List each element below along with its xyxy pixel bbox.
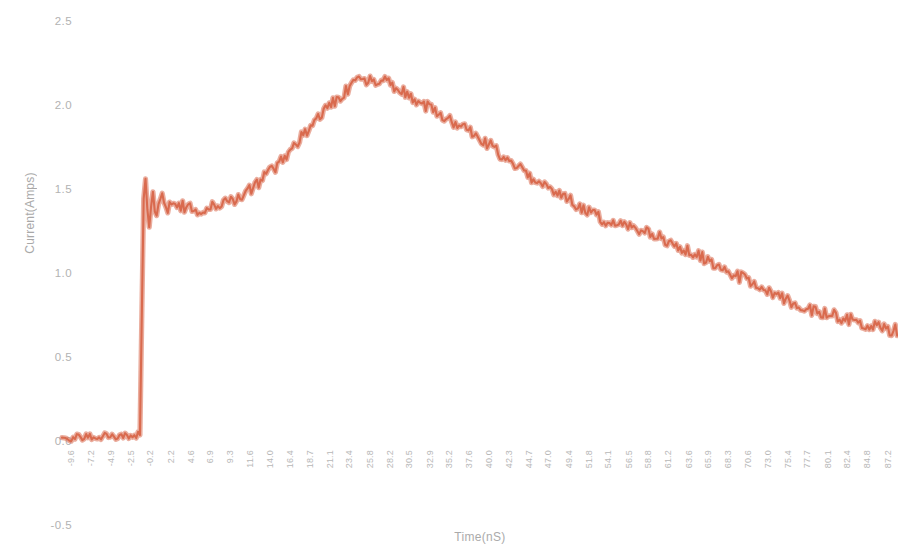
trace-line [62, 76, 897, 441]
x-axis-tick-label: 73.0 [763, 450, 773, 468]
x-axis-tick-label: 14.0 [265, 450, 275, 468]
x-axis-tick-label: 4.6 [186, 450, 196, 463]
x-axis-tick-label: 80.1 [823, 450, 833, 468]
plot-svg [62, 6, 898, 448]
x-axis-tick-label: 32.9 [425, 450, 435, 468]
x-axis-tick-label: 47.0 [543, 450, 553, 468]
x-axis-tick-label: 63.6 [684, 450, 694, 468]
x-axis-tick-label: 54.1 [603, 450, 613, 468]
x-axis-tick-labels: -9.6-7.2-4.9-2.5-0.22.24.66.99.311.614.0… [62, 450, 898, 498]
x-axis-tick-label: 56.5 [624, 450, 634, 468]
x-axis-tick-label: 16.4 [285, 450, 295, 468]
x-axis-tick-label: 51.8 [584, 450, 594, 468]
x-axis-tick-label: 68.3 [723, 450, 733, 468]
x-axis-tick-label: 23.4 [344, 450, 354, 468]
x-axis-tick-label: 40.0 [484, 450, 494, 468]
x-axis-tick-label: 30.5 [404, 450, 414, 468]
x-axis-tick-label: -0.2 [145, 450, 155, 466]
x-axis-tick-label: 65.9 [703, 450, 713, 468]
plot-area [62, 6, 898, 448]
x-axis-tick-label: 61.2 [663, 450, 673, 468]
x-axis-tick-label: 87.2 [883, 450, 893, 468]
x-axis-tick-label: 44.7 [524, 450, 534, 468]
x-axis-tick-label: 49.4 [564, 450, 574, 468]
x-axis-tick-label: 42.3 [504, 450, 514, 468]
x-axis-tick-label: 77.7 [802, 450, 812, 468]
x-axis-tick-label: 82.4 [842, 450, 852, 468]
chart-container: Current(Amps) 2.52.01.51.00.50.0-0.5 -9.… [0, 0, 898, 553]
x-axis-tick-label: 37.6 [464, 450, 474, 468]
trace-envelope [62, 76, 897, 441]
x-axis-tick-label: -9.6 [66, 450, 76, 466]
x-axis-tick-label: 58.8 [643, 450, 653, 468]
x-axis-tick-label: 25.8 [365, 450, 375, 468]
x-axis-tick-label: 6.9 [205, 450, 215, 463]
x-axis-tick-label: 28.2 [385, 450, 395, 468]
x-axis-tick-label: 21.1 [325, 450, 335, 468]
data-series-group [62, 76, 897, 441]
x-axis-tick-label: -7.2 [86, 450, 96, 466]
x-axis-tick-label: 84.8 [862, 450, 872, 468]
x-axis-tick-label: 75.4 [783, 450, 793, 468]
x-axis-tick-label: 11.6 [245, 450, 255, 468]
x-axis-tick-label: 35.2 [444, 450, 454, 468]
x-axis-tick-label: -4.9 [106, 450, 116, 466]
x-axis-tick-label: 18.7 [305, 450, 315, 468]
x-axis-tick-label: 70.6 [743, 450, 753, 468]
x-axis-tick-label: -2.5 [126, 450, 136, 466]
x-axis-title: Time(nS) [62, 530, 898, 544]
x-axis-tick-label: 9.3 [225, 450, 235, 463]
x-axis-tick-label: 2.2 [166, 450, 176, 463]
